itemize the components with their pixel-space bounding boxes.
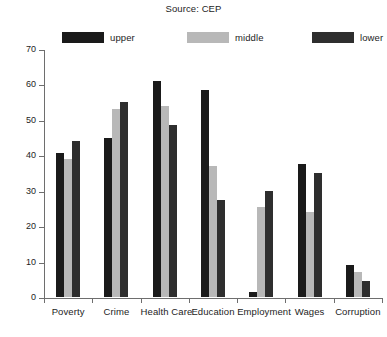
y-axis-tick-label: 50 xyxy=(26,115,36,125)
y-axis-tick-label: 30 xyxy=(26,186,36,196)
y-axis-tick: 60 xyxy=(39,85,44,86)
bar-middle-poverty xyxy=(64,159,72,297)
bar-lower-corruption xyxy=(362,281,370,297)
y-axis-tick-label: 40 xyxy=(26,150,36,160)
y-axis-tick: 10 xyxy=(39,263,44,264)
x-axis-tick xyxy=(92,298,93,303)
y-axis-tick: 50 xyxy=(39,121,44,122)
bar-group-wages xyxy=(298,49,322,297)
bar-group-corruption xyxy=(346,49,370,297)
y-axis-tick: 20 xyxy=(39,227,44,228)
legend-swatch-lower xyxy=(312,32,354,43)
chart-legend: uppermiddlelower xyxy=(62,30,352,45)
bar-middle-corruption xyxy=(354,272,362,297)
plot-area: 010203040506070PovertyCrimeHealth CareEd… xyxy=(44,50,382,298)
y-axis-tick-label: 70 xyxy=(26,44,36,54)
x-axis-line xyxy=(44,298,382,299)
x-axis-label-education: Education xyxy=(189,306,237,317)
bar-middle-education xyxy=(209,166,217,297)
x-axis-label-wages: Wages xyxy=(285,306,333,317)
bar-group-crime xyxy=(104,49,128,297)
bar-lower-education xyxy=(217,200,225,297)
chart-title: Source: CEP xyxy=(0,3,387,14)
bar-upper-crime xyxy=(104,138,112,297)
x-axis-tick xyxy=(334,298,335,303)
bar-group-employment xyxy=(249,49,273,297)
x-axis-label-employment: Employment xyxy=(237,306,285,317)
legend-swatch-middle xyxy=(187,32,229,43)
legend-entry-lower: lower xyxy=(312,30,383,45)
bar-middle-crime xyxy=(112,109,120,297)
bar-upper-employment xyxy=(249,292,257,297)
y-axis-tick-label: 20 xyxy=(26,221,36,231)
y-axis-line xyxy=(44,50,45,299)
bar-chart: Source: CEP uppermiddlelower 01020304050… xyxy=(0,0,387,337)
bar-upper-education xyxy=(201,90,209,297)
x-axis-tick xyxy=(141,298,142,303)
x-axis-tick xyxy=(285,298,286,303)
bar-middle-employment xyxy=(257,207,265,297)
x-axis-tick xyxy=(237,298,238,303)
y-axis-tick-label: 10 xyxy=(26,257,36,267)
bar-lower-employment xyxy=(265,191,273,297)
bar-lower-poverty xyxy=(72,141,80,297)
x-axis-tick xyxy=(44,298,45,303)
legend-entry-upper: upper xyxy=(62,30,135,45)
bar-upper-poverty xyxy=(56,153,64,297)
y-axis-tick: 70 xyxy=(39,50,44,51)
bar-group-education xyxy=(201,49,225,297)
legend-label-upper: upper xyxy=(110,32,135,43)
x-axis-label-poverty: Poverty xyxy=(44,306,92,317)
bar-lower-wages xyxy=(314,173,322,297)
legend-label-middle: middle xyxy=(235,32,264,43)
x-axis-tick xyxy=(382,298,383,303)
y-axis-tick-label: 0 xyxy=(31,292,36,302)
x-axis-label-health-care: Health Care xyxy=(141,306,189,317)
bar-middle-health-care xyxy=(161,106,169,297)
bar-lower-crime xyxy=(120,102,128,297)
x-axis-tick xyxy=(189,298,190,303)
bar-upper-corruption xyxy=(346,265,354,297)
legend-label-lower: lower xyxy=(360,32,383,43)
bar-group-health-care xyxy=(153,49,177,297)
x-axis-label-crime: Crime xyxy=(92,306,140,317)
bar-middle-wages xyxy=(306,212,314,297)
y-axis-tick-label: 60 xyxy=(26,79,36,89)
legend-swatch-upper xyxy=(62,32,104,43)
legend-entry-middle: middle xyxy=(187,30,264,45)
bar-lower-health-care xyxy=(169,125,177,297)
bar-upper-health-care xyxy=(153,81,161,297)
bar-upper-wages xyxy=(298,164,306,297)
x-axis-label-corruption: Corruption xyxy=(334,306,382,317)
y-axis-tick: 40 xyxy=(39,156,44,157)
y-axis-tick: 30 xyxy=(39,192,44,193)
bar-group-poverty xyxy=(56,49,80,297)
